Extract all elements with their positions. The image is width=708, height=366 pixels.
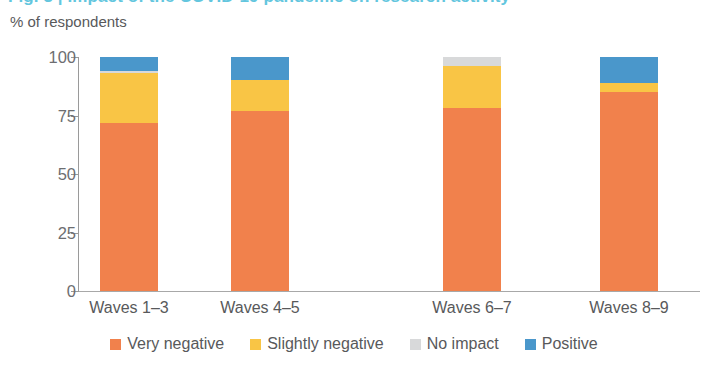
bar-segment-positive[interactable] [600, 57, 658, 83]
bar-1[interactable] [100, 57, 158, 291]
x-axis-label-1: Waves 1–3 [68, 299, 190, 317]
bar-segment-very-negative[interactable] [231, 111, 289, 291]
bar-3[interactable] [443, 57, 501, 291]
legend-item-positive[interactable]: Positive [525, 335, 598, 353]
bar-segment-slightly-negative[interactable] [100, 73, 158, 122]
legend-item-slightly-negative[interactable]: Slightly negative [250, 335, 384, 353]
chart-plot-area: 0255075100 Waves 1–3Waves 4–5Waves 6–7Wa… [0, 0, 708, 300]
bar-segment-very-negative[interactable] [600, 92, 658, 291]
bar-segment-slightly-negative[interactable] [600, 83, 658, 92]
bar-segment-slightly-negative[interactable] [443, 66, 501, 108]
x-axis-label-3: Waves 6–7 [411, 299, 533, 317]
legend-swatch-slightly-negative [250, 339, 261, 350]
x-axis-label-2: Waves 4–5 [199, 299, 321, 317]
x-axis-label-4: Waves 8–9 [568, 299, 690, 317]
legend-item-no-impact[interactable]: No impact [410, 335, 499, 353]
legend-swatch-very-negative [110, 339, 121, 350]
bars-layer [0, 57, 708, 291]
bar-segment-no-impact[interactable] [443, 57, 501, 66]
legend-label-no-impact: No impact [427, 335, 499, 353]
legend-swatch-no-impact [410, 339, 421, 350]
legend-swatch-positive [525, 339, 536, 350]
chart-legend: Very negativeSlightly negativeNo impactP… [0, 335, 708, 353]
legend-label-slightly-negative: Slightly negative [267, 335, 384, 353]
bar-segment-positive[interactable] [100, 57, 158, 71]
bar-segment-slightly-negative[interactable] [231, 80, 289, 110]
bar-segment-very-negative[interactable] [443, 108, 501, 291]
bar-segment-positive[interactable] [231, 57, 289, 80]
bar-segment-very-negative[interactable] [100, 123, 158, 291]
bar-2[interactable] [231, 57, 289, 291]
bar-4[interactable] [600, 57, 658, 291]
x-axis-line [78, 291, 700, 292]
legend-item-very-negative[interactable]: Very negative [110, 335, 224, 353]
legend-label-positive: Positive [542, 335, 598, 353]
legend-label-very-negative: Very negative [127, 335, 224, 353]
